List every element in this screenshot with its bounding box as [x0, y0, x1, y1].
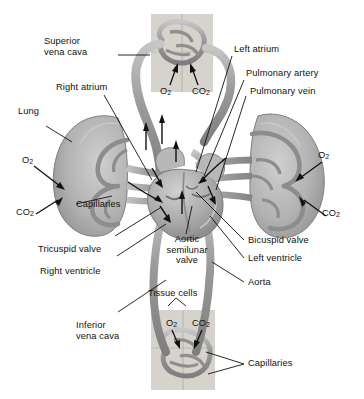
- label-left-atrium: Left atrium: [234, 44, 279, 55]
- label-o2-left-lung: O2: [22, 155, 33, 167]
- circulatory-system-diagram: Superior vena cava Right atrium Lung Cap…: [0, 0, 364, 399]
- label-o2-top: O2: [160, 86, 171, 98]
- label-tricuspid-valve: Tricuspid valve: [38, 244, 101, 255]
- lung-left-organ: [53, 116, 127, 237]
- bracket-tissue-cells: [168, 298, 186, 306]
- label-lung-left: Lung: [18, 106, 39, 117]
- label-capillaries-bottom: Capillaries: [248, 358, 293, 369]
- label-superior-vena-cava: Superior vena cava: [44, 36, 87, 57]
- label-pulmonary-artery: Pulmonary artery: [246, 68, 318, 79]
- label-o2-bottom: O2: [166, 318, 177, 330]
- label-capillaries-left: Capillaries: [76, 199, 121, 210]
- label-co2-top: CO2: [192, 86, 210, 98]
- label-pulmonary-vein: Pulmonary vein: [250, 86, 315, 97]
- label-right-ventricle: Right ventricle: [40, 266, 100, 277]
- label-aorta: Aorta: [248, 277, 271, 288]
- label-inferior-vena-cava: Inferior vena cava: [76, 320, 119, 341]
- label-co2-bottom: CO2: [192, 318, 210, 330]
- label-o2-right-lung: O2: [318, 150, 329, 162]
- label-bicuspid-valve: Bicuspid valve: [248, 235, 309, 246]
- diagram-artwork: [0, 0, 364, 399]
- label-co2-right-lung: CO2: [322, 208, 340, 220]
- label-left-ventricle: Left ventricle: [248, 253, 302, 264]
- label-co2-left-lung: CO2: [16, 207, 34, 219]
- heart-organ: [148, 148, 225, 240]
- label-aortic-semilunar-valve: Aortic semilunar valve: [152, 234, 222, 266]
- label-right-atrium: Right atrium: [56, 82, 107, 93]
- label-tissue-cells: Tissue cells: [148, 288, 197, 299]
